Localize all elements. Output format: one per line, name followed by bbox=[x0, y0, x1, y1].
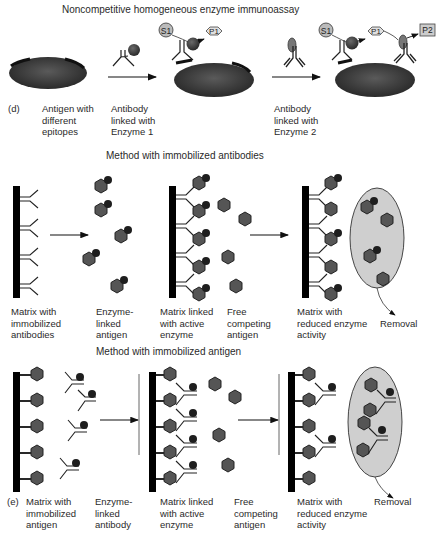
label-enzyme-linked-antigen: Enzyme- linked antigen bbox=[96, 306, 133, 341]
label-removal: Removal bbox=[380, 318, 418, 330]
label-antibody-enzyme2: Antibody linked with Enzyme 2 bbox=[274, 103, 318, 138]
panel-d: S1 P1 S1 P1 bbox=[9, 23, 435, 97]
label-matrix-immobilized-antigen: Matrix with immobilized antigen bbox=[26, 496, 76, 531]
label-free-competing-antigen: Free competing antigen bbox=[227, 306, 271, 341]
label-matrix-reduced-activity: Matrix with reduced enzyme activity bbox=[297, 306, 367, 341]
panel-e-tag: (e) bbox=[7, 496, 19, 508]
label-antigen-epitopes: Antigen with different epitopes bbox=[42, 103, 94, 138]
removal-ellipse-2 bbox=[348, 367, 402, 498]
section-antigen-title: Method with immobilized antigen bbox=[96, 346, 241, 357]
node-p1-2: P1 bbox=[371, 27, 381, 36]
node-p2: P2 bbox=[422, 25, 433, 35]
label-removal-2: Removal bbox=[374, 496, 412, 508]
label-matrix-active-enzyme-2: Matrix linked with active enzyme bbox=[160, 496, 213, 531]
section-antibodies-title: Method with immobilized antibodies bbox=[106, 150, 264, 161]
antigen-with-both-antibodies: S1 P1 P2 bbox=[319, 23, 435, 97]
antibody-enzyme1 bbox=[113, 44, 140, 66]
diagram-canvas: S1 P1 S1 P1 bbox=[0, 0, 447, 541]
label-matrix-immobilized-antibodies: Matrix with immobilized antibodies bbox=[11, 306, 61, 341]
panel-d-tag: (d) bbox=[8, 103, 20, 115]
section-immobilized-antibodies bbox=[13, 174, 404, 315]
removal-ellipse bbox=[350, 188, 404, 315]
antigen-with-antibody1: S1 P1 bbox=[159, 23, 254, 97]
label-matrix-reduced-activity-2: Matrix with reduced enzyme activity bbox=[297, 496, 367, 531]
antigen-ellipse bbox=[9, 57, 87, 89]
label-free-competing-antigen-2: Free competing antigen bbox=[234, 496, 278, 531]
antibody-enzyme2 bbox=[284, 38, 305, 67]
section-immobilized-antigen bbox=[13, 367, 402, 498]
label-matrix-active-enzyme: Matrix linked with active enzyme bbox=[160, 306, 213, 341]
label-enzyme-linked-antibody: Enzyme- linked antibody bbox=[95, 496, 132, 531]
node-s1-2: S1 bbox=[321, 26, 332, 36]
node-s1: S1 bbox=[161, 26, 172, 36]
label-antibody-enzyme1: Antibody linked with Enzyme 1 bbox=[111, 103, 155, 138]
node-p1: P1 bbox=[209, 27, 219, 36]
panel-d-title: Noncompetitive homogeneous enzyme immuno… bbox=[62, 4, 299, 15]
